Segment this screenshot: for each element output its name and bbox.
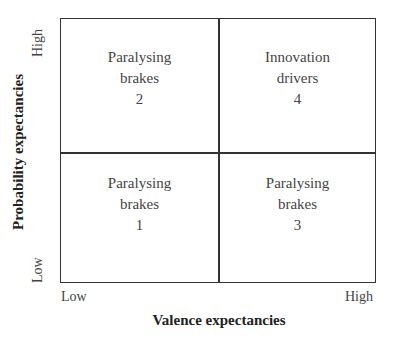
quadrant-bottom-right: Paralysing brakes 3 [219, 153, 376, 286]
y-axis-title: Probability expectancies [10, 52, 30, 252]
quadrant-label-line1: Innovation [265, 47, 330, 68]
x-axis-title: Valence expectancies [0, 312, 394, 329]
matrix-grid: Paralysing brakes 2 Innovation drivers 4… [60, 18, 376, 283]
quadrant-number: 1 [108, 215, 171, 236]
quadrant-label-line2: drivers [265, 68, 330, 89]
quadrant-label-line2: brakes [266, 194, 329, 215]
y-axis-high-label: High [30, 29, 46, 57]
quadrant-label-line2: brakes [108, 194, 171, 215]
quadrant-number: 2 [108, 89, 171, 110]
quadrant-number: 4 [265, 89, 330, 110]
quadrant-label-line1: Paralysing [108, 173, 171, 194]
quadrant-number: 3 [266, 215, 329, 236]
quadrant-top-left: Paralysing brakes 2 [61, 19, 218, 152]
y-axis-low-label: Low [30, 257, 46, 283]
x-axis-high-label: High [345, 289, 373, 305]
quadrant-label-line2: brakes [108, 68, 171, 89]
quadrant-bottom-left: Paralysing brakes 1 [61, 153, 218, 286]
quadrant-top-right: Innovation drivers 4 [219, 19, 376, 152]
x-axis-low-label: Low [61, 289, 87, 305]
quadrant-label-line1: Paralysing [266, 173, 329, 194]
quadrant-label-line1: Paralysing [108, 47, 171, 68]
